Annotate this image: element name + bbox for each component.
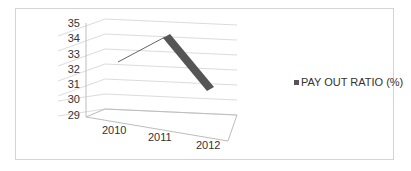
y-tick: 34 bbox=[68, 32, 80, 44]
y-tick: 29 bbox=[68, 109, 80, 121]
series-pay-out-ratio bbox=[118, 34, 214, 91]
y-tick: 35 bbox=[68, 17, 80, 29]
gridlines bbox=[58, 19, 237, 116]
x-axis-labels: 2010 2011 2012 bbox=[102, 124, 220, 151]
y-tick: 31 bbox=[68, 78, 80, 90]
legend-swatch-icon bbox=[294, 80, 299, 85]
y-tick: 30 bbox=[68, 93, 80, 105]
x-tick: 2012 bbox=[196, 139, 220, 151]
y-tick: 32 bbox=[68, 63, 80, 75]
legend: PAY OUT RATIO (%) bbox=[294, 76, 403, 88]
x-tick: 2011 bbox=[148, 131, 172, 143]
y-axis-labels: 35 34 33 32 31 30 29 bbox=[68, 17, 80, 121]
x-tick: 2010 bbox=[102, 124, 126, 136]
legend-label: PAY OUT RATIO (%) bbox=[301, 76, 403, 88]
y-tick: 33 bbox=[68, 48, 80, 60]
